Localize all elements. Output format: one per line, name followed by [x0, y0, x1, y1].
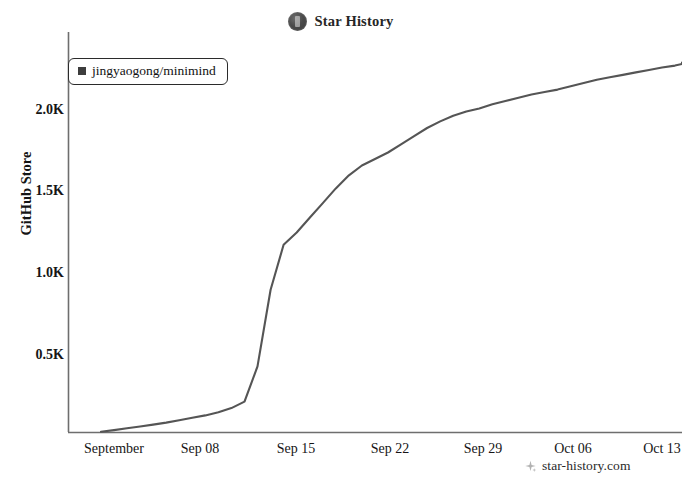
x-tick-label: Oct 13 [643, 441, 681, 457]
x-tick-label: Sep 29 [464, 441, 503, 457]
x-tick-label: Sep 15 [277, 441, 316, 457]
y-tick-label: 0.5K [2, 347, 64, 363]
star-history-chart: Star History 0.5K 1.0K 1.5K 2.0K GitHub … [0, 0, 682, 478]
watermark-label: star-history.com [542, 458, 631, 474]
y-axis-title: GitHub Store [18, 124, 35, 264]
watermark: star-history.com [524, 458, 631, 474]
legend-swatch-icon [78, 67, 86, 75]
x-tick-label: September [84, 441, 144, 457]
chart-legend[interactable]: jingyaogong/minimind [68, 58, 228, 85]
sparkle-icon [524, 460, 537, 473]
x-tick-label: Oct 06 [554, 441, 592, 457]
series-line-jingyaogong-minimind [101, 63, 682, 432]
legend-item-label: jingyaogong/minimind [92, 64, 216, 78]
x-tick-label: Sep 08 [181, 441, 220, 457]
y-tick-label: 1.0K [2, 265, 64, 281]
x-tick-label: Sep 22 [371, 441, 410, 457]
y-tick-label: 2.0K [2, 102, 64, 118]
